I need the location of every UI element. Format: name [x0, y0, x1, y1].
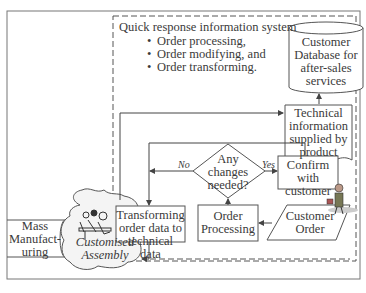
customised-assembly-label: Customised Assembly: [72, 236, 138, 262]
database-label: Customer Database for after-sales servic…: [289, 36, 363, 88]
no-label: No: [178, 159, 190, 170]
customer-order-label: Customer Order: [277, 210, 343, 236]
mass-manufacturing-label: Mass Manufact- uring: [8, 220, 62, 259]
yes-label: Yes: [262, 159, 275, 170]
decision-label: Any changes needed?: [200, 153, 256, 192]
technical-info-label: Technical information supplied by produc…: [285, 107, 352, 159]
order-processing-label: Order Processing: [198, 210, 258, 236]
system-bullets: Order processing, Order modifying, and O…: [147, 35, 266, 74]
system-title: Quick response information system: [119, 21, 296, 34]
confirm-label: Confirm with customer: [278, 159, 338, 198]
bullet-item: Order transforming.: [147, 61, 266, 74]
